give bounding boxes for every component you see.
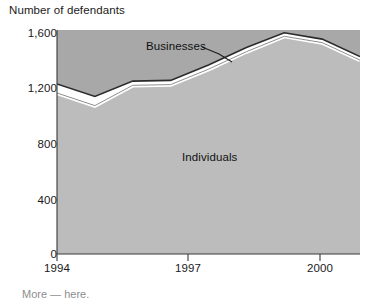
y-tick-label: 1,600 (9, 27, 57, 39)
chart-figure: Number of defendants (0, 0, 375, 298)
x-tick-label: 1994 (27, 262, 87, 274)
caption-text: More — here. (0, 288, 375, 298)
y-tick-label: 0 (9, 248, 57, 260)
caption-clipped: More — here. (0, 288, 375, 298)
x-tick-label: 2000 (290, 262, 350, 274)
series-label-individuals: Individuals (182, 151, 237, 163)
series-label-businesses: Businesses (146, 40, 206, 52)
x-tick-label: 1997 (158, 262, 218, 274)
x-axis-ticks (57, 254, 320, 261)
y-tick-label: 800 (9, 138, 57, 150)
y-tick-label: 400 (9, 194, 57, 206)
y-tick-label: 1,200 (9, 82, 57, 94)
